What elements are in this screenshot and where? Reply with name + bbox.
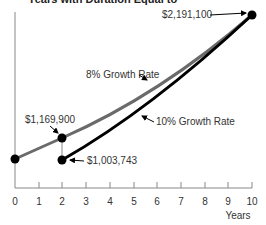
- arrow-series-10: [142, 116, 154, 122]
- tick-label-1: 1: [36, 196, 42, 207]
- arrow-10pct-year-2: [70, 160, 84, 161]
- annotation-end-value: $2,191,100: [162, 9, 212, 20]
- tick-label-7: 7: [178, 196, 184, 207]
- annotation-10pct-year-2: $1,003,743: [87, 155, 137, 166]
- point-year-0: [11, 155, 20, 164]
- arrow-8pct-year-2: [50, 126, 58, 133]
- tick-label-5: 5: [131, 196, 137, 207]
- series-8-percent-label: 8% Growth Rate: [86, 69, 160, 80]
- tick-label-0: 0: [12, 196, 18, 207]
- tick-label-10: 10: [246, 196, 258, 207]
- series-8-percent-line: [15, 15, 252, 159]
- tick-label-8: 8: [202, 196, 208, 207]
- point-8pct-year-2: [58, 134, 67, 143]
- annotation-8pct-year-2: $1,169,900: [25, 114, 75, 125]
- x-axis-ticks: [39, 182, 252, 188]
- tick-label-4: 4: [107, 196, 113, 207]
- tick-label-6: 6: [154, 196, 160, 207]
- point-year-10: [248, 11, 257, 20]
- tick-label-3: 3: [83, 196, 89, 207]
- chart-canvas: 0 1 2 3 4 5 6 7 8 9 10 Years $2,191,100 …: [0, 0, 266, 225]
- tick-label-9: 9: [225, 196, 231, 207]
- x-axis-label: Years: [225, 210, 250, 221]
- tick-label-2: 2: [59, 196, 65, 207]
- arrow-end-value: [210, 13, 246, 15]
- point-10pct-year-2: [58, 156, 67, 165]
- series-10-percent-label: 10% Growth Rate: [156, 116, 235, 127]
